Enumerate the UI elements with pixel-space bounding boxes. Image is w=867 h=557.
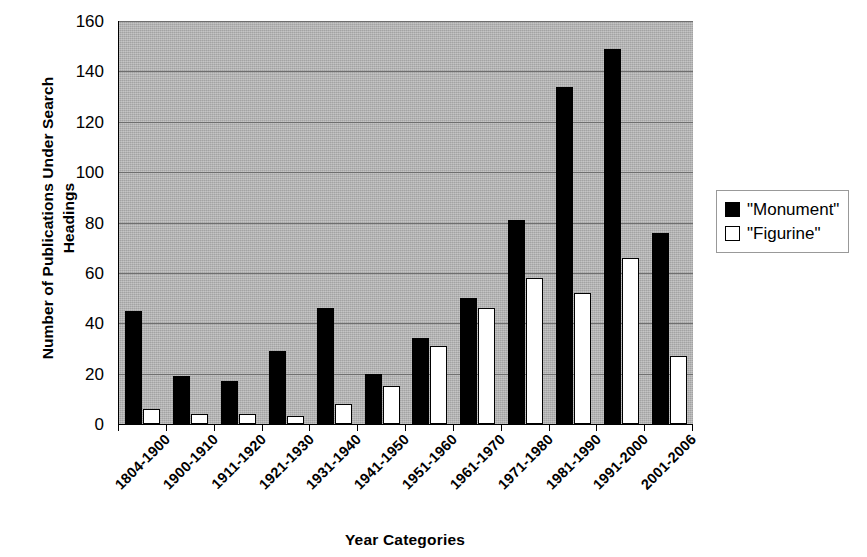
bar-monument[interactable]	[125, 311, 142, 424]
bar-figurine[interactable]	[191, 414, 208, 424]
legend-label-monument: "Monument"	[747, 201, 839, 218]
bar-monument[interactable]	[173, 376, 190, 424]
y-axis-tick-label: 120	[52, 113, 104, 130]
x-axis-tick-mark	[118, 424, 119, 431]
y-axis-tick-label: 100	[52, 164, 104, 181]
x-axis-tick-mark	[262, 424, 263, 431]
y-axis-tick-label: 0	[52, 416, 104, 433]
x-axis-tick-mark	[692, 424, 693, 431]
bar-figurine[interactable]	[574, 293, 591, 424]
bar-group	[310, 21, 358, 424]
bar-monument[interactable]	[460, 298, 477, 424]
bar-figurine[interactable]	[670, 356, 687, 424]
x-axis-tick-mark	[309, 424, 310, 431]
bar-group	[167, 21, 215, 424]
bar-group	[406, 21, 454, 424]
plot-area	[118, 21, 693, 425]
bar-group	[645, 21, 693, 424]
bar-monument[interactable]	[556, 87, 573, 425]
bar-group	[358, 21, 406, 424]
bar-figurine[interactable]	[143, 409, 160, 424]
x-axis-tick-mark	[357, 424, 358, 431]
bar-figurine[interactable]	[478, 308, 495, 424]
x-axis-category-labels: 1804-19001900-19101911-19201921-19301931…	[0, 431, 760, 526]
bar-group	[502, 21, 550, 424]
chart-legend: "Monument" "Figurine"	[716, 190, 849, 253]
y-axis-tick-label: 80	[52, 214, 104, 231]
x-axis-tick-mark	[596, 424, 597, 431]
bar-figurine[interactable]	[335, 404, 352, 424]
bar-monument[interactable]	[604, 49, 621, 424]
bar-group	[597, 21, 645, 424]
bar-monument[interactable]	[412, 338, 429, 424]
legend-swatch-monument-icon	[725, 202, 740, 217]
x-axis-tick-mark	[549, 424, 550, 431]
y-axis-tick-label: 140	[52, 63, 104, 80]
bar-monument[interactable]	[508, 220, 525, 424]
bar-figurine[interactable]	[287, 416, 304, 424]
x-axis-tick-mark	[214, 424, 215, 431]
x-axis-tick-mark	[453, 424, 454, 431]
bar-group	[550, 21, 598, 424]
x-axis-tick-mark	[644, 424, 645, 431]
bar-monument[interactable]	[365, 374, 382, 424]
y-axis-tick-label: 20	[52, 365, 104, 382]
y-axis-tick-label: 60	[52, 264, 104, 281]
bar-figurine[interactable]	[239, 414, 256, 424]
bar-group	[119, 21, 167, 424]
bar-group	[215, 21, 263, 424]
y-axis-tick-labels: 020406080100120140160	[52, 0, 104, 440]
bar-monument[interactable]	[269, 351, 286, 424]
bar-figurine[interactable]	[622, 258, 639, 424]
legend-swatch-figurine-icon	[725, 226, 740, 241]
x-axis-tick-mark	[405, 424, 406, 431]
legend-item-figurine[interactable]: "Figurine"	[725, 221, 839, 245]
bar-monument[interactable]	[652, 233, 669, 424]
bar-group	[454, 21, 502, 424]
y-axis-tick-label: 160	[52, 13, 104, 30]
bar-figurine[interactable]	[430, 346, 447, 424]
x-axis-title: Year Categories	[118, 531, 692, 549]
bar-monument[interactable]	[317, 308, 334, 424]
bar-figurine[interactable]	[526, 278, 543, 424]
bar-figurine[interactable]	[383, 386, 400, 424]
bars-layer	[119, 21, 693, 424]
x-axis-tick-mark	[166, 424, 167, 431]
bar-monument[interactable]	[221, 381, 238, 424]
x-axis-tick-mark	[501, 424, 502, 431]
bar-chart: Number of Publications Under Search Head…	[0, 0, 867, 557]
legend-item-monument[interactable]: "Monument"	[725, 197, 839, 221]
bar-group	[263, 21, 311, 424]
legend-label-figurine: "Figurine"	[747, 225, 821, 242]
y-axis-tick-label: 40	[52, 315, 104, 332]
